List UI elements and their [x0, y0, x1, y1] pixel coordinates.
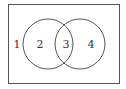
region-label-1: 1	[14, 38, 21, 51]
venn-diagram: 1 2 3 4	[0, 0, 126, 89]
region-label-2: 2	[37, 38, 44, 51]
region-label-3: 3	[63, 38, 70, 51]
region-label-4: 4	[88, 38, 95, 51]
